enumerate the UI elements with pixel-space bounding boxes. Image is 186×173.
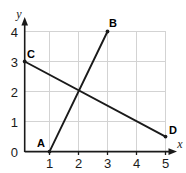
y-tick-label-1: 1 [11, 115, 18, 130]
line-segment-cd [25, 62, 166, 137]
point-label-c: C [27, 48, 35, 60]
y-axis-label: y [15, 7, 22, 21]
grid-lines [25, 31, 166, 152]
x-tick-label-3: 3 [104, 156, 111, 171]
point-marker-b [106, 30, 110, 34]
y-axis-arrow-icon [21, 17, 28, 26]
y-tick-label-4: 4 [11, 25, 18, 40]
point-label-b: B [109, 17, 117, 29]
point-marker-d [164, 135, 168, 139]
coordinate-plane-figure: 4 3 2 1 0 1 2 3 4 5 y x A B C D [0, 0, 186, 173]
x-tick-label-1: 1 [46, 156, 53, 171]
point-label-d: D [169, 124, 177, 136]
x-tick-label-5: 5 [162, 156, 169, 171]
y-tick-label-2: 2 [11, 85, 18, 100]
x-axis-label: x [176, 137, 183, 151]
graph-plot: 4 3 2 1 0 1 2 3 4 5 y x A B C D [0, 0, 186, 173]
x-tick-label-2: 2 [75, 156, 82, 171]
point-marker-a [48, 150, 52, 154]
x-axis-arrow-icon [169, 148, 178, 155]
x-tick-label-4: 4 [133, 156, 140, 171]
point-label-a: A [37, 137, 45, 149]
axes [25, 22, 172, 152]
y-tick-label-0: 0 [11, 145, 18, 160]
y-tick-label-3: 3 [11, 55, 18, 70]
point-marker-c [23, 60, 27, 64]
